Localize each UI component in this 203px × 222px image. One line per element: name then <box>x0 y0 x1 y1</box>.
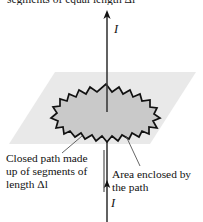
current-label-bottom: I <box>111 196 115 211</box>
caption-area-enclosed: Area enclosed by the path <box>112 168 200 194</box>
caption-closed-path: Closed path made up of segments of lengt… <box>6 152 98 192</box>
figure-root: segments of equal length Δl I I Closed p… <box>0 0 203 222</box>
current-label-top: I <box>114 22 118 37</box>
